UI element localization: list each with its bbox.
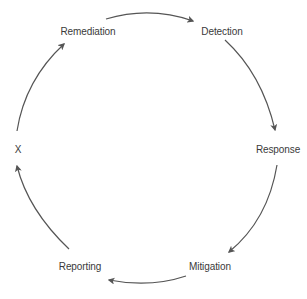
arrow-detection-to-response: [225, 40, 275, 130]
node-x: X: [15, 144, 22, 155]
node-response: Response: [256, 144, 300, 155]
cycle-diagram: Remediation Detection Response Mitigatio…: [0, 0, 307, 299]
arrow-remediation-to-detection: [106, 13, 193, 21]
node-remediation: Remediation: [60, 26, 115, 37]
node-detection: Detection: [201, 26, 242, 37]
arrow-mitigation-to-reporting: [109, 276, 186, 283]
node-mitigation: Mitigation: [189, 261, 231, 272]
arrow-response-to-mitigation: [229, 165, 277, 252]
arrow-x-to-remediation: [17, 44, 64, 131]
node-reporting: Reporting: [59, 261, 101, 272]
arrow-reporting-to-x: [17, 166, 69, 249]
